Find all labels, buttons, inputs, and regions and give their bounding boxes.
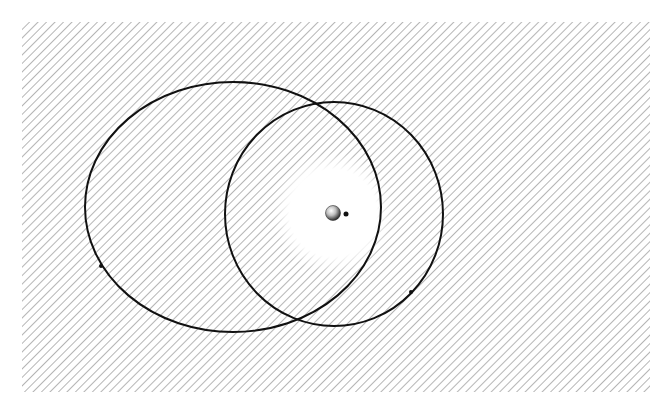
moon-icon	[344, 212, 349, 217]
central-body-icon	[326, 206, 341, 221]
marker-on-elliptical-orbit	[99, 264, 103, 268]
orbit-diagram	[0, 0, 667, 413]
marker-on-circular-orbit	[409, 290, 413, 294]
